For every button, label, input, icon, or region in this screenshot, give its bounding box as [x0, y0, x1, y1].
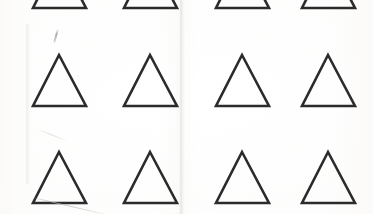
- scanned-sheet: [0, 0, 373, 214]
- triangle-row-1: [33, 0, 355, 8]
- triangle-r3c1-icon: [33, 152, 86, 203]
- triangle-r1c4-icon: [302, 0, 355, 8]
- triangle-r3c3-icon: [216, 152, 269, 203]
- triangle-r3c4-icon: [302, 152, 355, 203]
- triangle-r1c1-icon: [33, 0, 86, 8]
- triangle-r2c2-icon: [124, 55, 177, 106]
- triangle-row-3: [33, 152, 355, 203]
- triangle-r1c3-icon: [216, 0, 269, 8]
- triangle-r2c1-icon: [33, 55, 86, 106]
- triangle-r2c3-icon: [216, 55, 269, 106]
- triangle-r1c2-icon: [124, 0, 177, 8]
- triangle-row-2: [33, 55, 355, 106]
- triangle-r2c4-icon: [302, 55, 355, 106]
- triangle-r3c2-icon: [124, 152, 177, 203]
